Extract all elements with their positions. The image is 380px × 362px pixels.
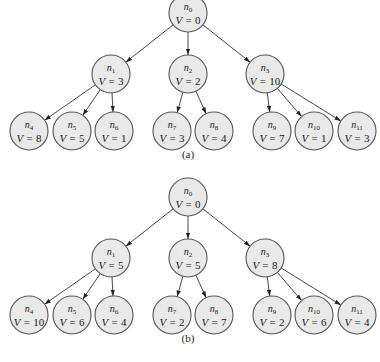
tree-a: n0V = 0n1V = 3n2V = 2n3V = 10n4V = 8n5V … [10, 0, 376, 150]
tree-node-n0: n0V = 0 [169, 178, 207, 216]
tree-node-n11: n11V = 3 [338, 112, 376, 150]
node-value: V = 0 [176, 14, 201, 26]
node-value: V = 3 [99, 75, 124, 87]
tree-node-n6: n6V = 4 [95, 296, 133, 334]
node-value: V = 2 [176, 75, 201, 87]
tree-node-n9: n9V = 2 [253, 296, 291, 334]
caption-a: (a) [182, 148, 195, 161]
tree-node-n1: n1V = 5 [92, 239, 130, 277]
tree-node-n7: n7V = 3 [153, 112, 191, 150]
edge-n3-n10 [277, 272, 301, 300]
node-value: V = 10 [14, 316, 45, 328]
node-value: V = 4 [345, 316, 370, 328]
tree-node-n1: n1V = 3 [92, 55, 130, 93]
node-value: V = 6 [60, 316, 85, 328]
edge-n1-n5 [83, 274, 101, 300]
node-value: V = 3 [160, 132, 185, 144]
node-value: V = 7 [260, 132, 285, 144]
edge-n2-n8 [196, 91, 206, 113]
tree-node-n4: n4V = 8 [10, 112, 48, 150]
node-value: V = 1 [102, 132, 127, 144]
caption-b: (b) [182, 332, 195, 345]
node-value: V = 10 [250, 75, 281, 87]
node-value: V = 5 [60, 132, 85, 144]
edge-n1-n6 [112, 93, 113, 112]
edge-n0-n3 [203, 25, 250, 62]
tree-node-n7: n7V = 2 [153, 296, 191, 334]
tree-node-n2: n2V = 2 [169, 55, 207, 93]
edge-n0-n1 [126, 25, 173, 62]
edge-n3-n9 [267, 93, 269, 112]
tree-node-n2: n2V = 5 [169, 239, 207, 277]
edge-n0-n1 [126, 209, 173, 246]
edge-n1-n5 [83, 90, 101, 116]
tree-b: n0V = 0n1V = 5n2V = 5n3V = 8n4V = 10n5V … [10, 178, 376, 334]
tree-node-n3: n3V = 8 [246, 239, 284, 277]
node-value: V = 2 [260, 316, 285, 328]
edge-n3-n9 [267, 277, 269, 296]
tree-node-n6: n6V = 1 [95, 112, 133, 150]
node-value: V = 4 [202, 132, 227, 144]
tree-node-n8: n8V = 4 [195, 112, 233, 150]
node-value: V = 3 [345, 132, 370, 144]
node-value: V = 1 [302, 132, 327, 144]
tree-node-n5: n5V = 6 [53, 296, 91, 334]
node-value: V = 4 [102, 316, 127, 328]
edge-n2-n8 [196, 275, 206, 297]
tree-node-n10: n10V = 1 [295, 112, 333, 150]
tree-diagram: n0V = 0n1V = 3n2V = 2n3V = 10n4V = 8n5V … [0, 0, 380, 362]
tree-node-n5: n5V = 5 [53, 112, 91, 150]
node-value: V = 6 [302, 316, 327, 328]
node-value: V = 8 [253, 259, 278, 271]
tree-node-n11: n11V = 4 [338, 296, 376, 334]
edge-n0-n3 [203, 209, 250, 246]
edge-n2-n7 [177, 276, 183, 296]
tree-node-n0: n0V = 0 [169, 0, 207, 32]
node-value: V = 5 [176, 259, 201, 271]
edge-n3-n10 [277, 88, 301, 116]
tree-node-n10: n10V = 6 [295, 296, 333, 334]
node-value: V = 2 [160, 316, 185, 328]
tree-node-n4: n4V = 10 [10, 296, 48, 334]
node-value: V = 0 [176, 198, 201, 210]
tree-node-n8: n8V = 7 [195, 296, 233, 334]
node-value: V = 7 [202, 316, 227, 328]
tree-node-n9: n9V = 7 [253, 112, 291, 150]
edge-n2-n7 [177, 92, 183, 112]
edge-n1-n6 [112, 277, 113, 296]
node-value: V = 8 [17, 132, 42, 144]
tree-node-n3: n3V = 10 [246, 55, 284, 93]
node-value: V = 5 [99, 259, 124, 271]
